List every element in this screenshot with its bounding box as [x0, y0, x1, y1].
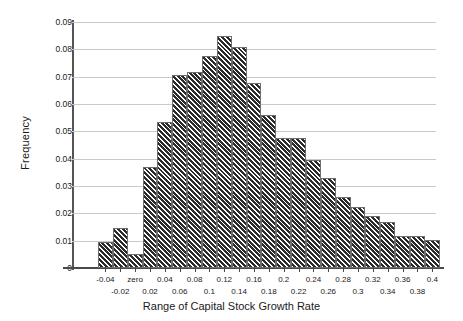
histogram-bar [143, 167, 158, 268]
histogram-bar [113, 228, 128, 268]
histogram-bar [172, 75, 187, 268]
x-axis-tick-label: 0.22 [291, 288, 307, 296]
histogram-bar [187, 72, 202, 268]
y-axis-tick-label: 0.08 [28, 45, 72, 54]
x-axis-tick-label: 0.08 [187, 276, 203, 284]
x-axis-tick-label: 0.02 [142, 288, 158, 296]
x-axis-tick-mark [373, 267, 374, 272]
x-axis-tick-mark [180, 267, 181, 272]
x-axis-tick-label: 0.32 [365, 276, 381, 284]
histogram-bar [410, 236, 425, 268]
x-axis-tick-mark [150, 267, 151, 272]
histogram-bar [232, 47, 247, 268]
x-axis-tick-label: 0.18 [261, 288, 277, 296]
histogram-bar [321, 178, 336, 268]
plot-area [72, 22, 436, 268]
y-axis-tick-label: 0.01 [28, 236, 72, 245]
histogram-bar [157, 122, 172, 268]
x-axis-tick-label: -0.04 [96, 276, 114, 284]
x-axis-tick-mark [254, 267, 255, 272]
x-axis-tick-label: 0.26 [320, 288, 336, 296]
x-axis-tick-label: -0.02 [111, 288, 129, 296]
x-axis-tick-mark [417, 267, 418, 272]
histogram-bar [276, 138, 291, 268]
histogram-bar [351, 207, 366, 268]
x-axis-tick-mark [388, 267, 389, 272]
x-axis-tick-label: zero [127, 276, 143, 284]
x-axis-tick-label: 0.04 [157, 276, 173, 284]
histogram-bar [336, 197, 351, 268]
y-axis-tick-label: 0.06 [28, 100, 72, 109]
histogram-bar [217, 36, 232, 268]
y-axis-tick-label: 0.07 [28, 72, 72, 81]
x-axis-tick-mark [432, 267, 433, 272]
histogram-bar [380, 222, 395, 268]
x-axis-tick-label: 0.34 [380, 288, 396, 296]
histogram-bar [261, 115, 276, 268]
y-axis-tick-label: 0.04 [28, 154, 72, 163]
x-axis-tick-mark [328, 267, 329, 272]
x-axis-tick-label: 0.06 [172, 288, 188, 296]
histogram-bar [425, 240, 440, 268]
x-axis-tick-label: 0.36 [395, 276, 411, 284]
x-axis-tick-mark [269, 267, 270, 272]
y-axis-tick-labels: 00.010.020.030.040.050.060.070.080.09 [22, 0, 72, 321]
x-axis-tick-mark [403, 267, 404, 272]
x-axis-tick-mark [299, 267, 300, 272]
x-axis-tick-mark [343, 267, 344, 272]
x-axis-tick-label: 0.24 [306, 276, 322, 284]
y-axis-tick-label: 0.03 [28, 182, 72, 191]
histogram-bar [202, 56, 217, 268]
histogram-bar [98, 242, 113, 268]
x-axis-tick-label: 0.28 [335, 276, 351, 284]
x-axis-tick-label: 0.12 [216, 276, 232, 284]
x-axis-tick-label: 0.14 [231, 288, 247, 296]
histogram-bar [128, 254, 143, 268]
x-axis-title: Range of Capital Stock Growth Rate [0, 300, 463, 312]
x-axis-tick-mark [195, 267, 196, 272]
x-axis-tick-label: 0.16 [246, 276, 262, 284]
histogram-bar [291, 138, 306, 268]
x-axis-tick-mark [358, 267, 359, 272]
histogram-bar [306, 160, 321, 269]
x-axis-tick-mark [165, 267, 166, 272]
y-axis-tick-label: 0.05 [28, 127, 72, 136]
y-axis-tick-label: 0.09 [28, 18, 72, 27]
histogram-bar [365, 216, 380, 268]
x-axis-tick-mark [224, 267, 225, 272]
bar-series [72, 22, 436, 268]
x-axis-tick-mark [120, 267, 121, 272]
x-axis-tick-mark [239, 267, 240, 272]
x-axis-tick-label: 0.1 [204, 288, 215, 296]
y-axis-tick-label: 0.02 [28, 209, 72, 218]
x-axis-tick-mark [135, 267, 136, 272]
histogram-chart: Frequency 00.010.020.030.040.050.060.070… [0, 0, 463, 321]
x-axis-tick-label: 0.2 [278, 276, 289, 284]
x-axis-tick-mark [313, 267, 314, 272]
histogram-bar [395, 236, 410, 268]
x-axis-tick-label: 0.3 [352, 288, 363, 296]
histogram-bar [247, 83, 262, 268]
x-axis-tick-label: 0.38 [410, 288, 426, 296]
x-axis-tick-label: 0.4 [427, 276, 438, 284]
x-axis-tick-mark [209, 267, 210, 272]
x-axis-tick-mark [284, 267, 285, 272]
x-axis-tick-mark [105, 267, 106, 272]
